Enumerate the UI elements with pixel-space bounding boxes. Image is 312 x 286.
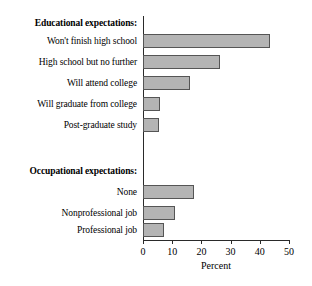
category-label: Will attend college [0,74,137,92]
bar-row: Won't finish high school [0,32,312,50]
bar [143,223,164,237]
x-axis-title: Percent [143,259,289,272]
bar-chart: Educational expectations:Won't finish hi… [0,0,312,286]
bar-row: Will attend college [0,74,312,92]
bar [143,118,159,132]
bar-row: Will graduate from college [0,95,312,113]
category-label: None [0,183,137,201]
x-axis-tick-label: 30 [216,245,246,258]
bar [143,185,194,199]
group-heading-label: Educational expectations: [0,14,137,32]
category-label: Post-graduate study [0,116,137,134]
plot-area: Educational expectations:Won't finish hi… [0,0,312,286]
group-heading-row: Occupational expectations: [0,162,312,180]
x-axis-tick-mark [289,240,290,244]
bar [143,55,220,69]
x-axis-tick-label: 20 [186,245,216,258]
category-label: Professional job [0,221,137,239]
bar [143,76,190,90]
x-axis-tick-label: 10 [157,245,187,258]
group-heading-label: Occupational expectations: [0,162,137,180]
bar-row: Professional job [0,221,312,239]
x-axis-tick-mark [231,240,232,244]
x-axis-tick-label: 0 [128,245,158,258]
x-axis-tick-mark [172,240,173,244]
x-axis-tick-mark [260,240,261,244]
category-label: High school but no further [0,53,137,71]
x-axis-tick-label: 50 [274,245,304,258]
bar-row: High school but no further [0,53,312,71]
x-axis-tick-mark [143,240,144,244]
x-axis-tick-mark [201,240,202,244]
bar [143,34,270,48]
x-axis-tick-label: 40 [245,245,275,258]
category-label: Nonprofessional job [0,204,137,222]
bar-row: None [0,183,312,201]
x-axis-line [143,240,289,241]
bar [143,206,175,220]
bar-row: Nonprofessional job [0,204,312,222]
group-heading-row: Educational expectations: [0,14,312,32]
bar-row: Post-graduate study [0,116,312,134]
bar [143,97,160,111]
category-label: Will graduate from college [0,95,137,113]
category-label: Won't finish high school [0,32,137,50]
